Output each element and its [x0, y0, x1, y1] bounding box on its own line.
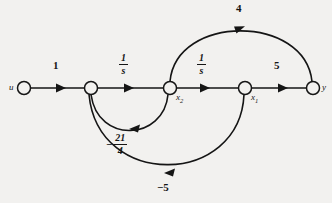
fraction-numerator: 21 — [113, 133, 127, 144]
node-label-x1: x1 — [251, 93, 258, 104]
node-label-x2: x2 — [176, 93, 183, 104]
arrowhead-x1-to-y — [278, 84, 288, 93]
gain-value-x1-to-node2: −5 — [157, 181, 169, 193]
node-u[interactable] — [18, 82, 31, 95]
fraction-1-over-s-first: 1 s — [119, 53, 128, 76]
edge-x2-to-node2-arc — [91, 95, 168, 131]
fraction-sign: − — [106, 139, 112, 150]
fraction-1-over-s-second: 1 s — [197, 53, 206, 76]
gain-label-node2-to-x2: 1 s — [119, 53, 128, 76]
fraction-denominator: s — [119, 66, 128, 77]
node-x1[interactable] — [239, 82, 252, 95]
arrowhead-x2-to-y-arc — [234, 26, 245, 33]
arrowhead-x2-to-x1 — [200, 84, 210, 93]
fraction-numerator: 1 — [119, 53, 128, 64]
fraction-denominator: 4 — [113, 146, 127, 157]
gain-label-u-to-node2: 1 — [53, 60, 59, 71]
arrowhead-x1-to-node2-arc — [164, 169, 175, 177]
gain-value-x1-to-y: 5 — [274, 59, 280, 71]
gain-label-x2-to-y: 4 — [236, 3, 242, 14]
node-label-x2-subscript: 2 — [180, 97, 183, 104]
fraction-21-over-4: 21 4 — [113, 133, 127, 156]
node-y[interactable] — [307, 82, 320, 95]
node-label-u-text: u — [9, 82, 14, 92]
gain-label-x2-to-node2: − 21 4 — [106, 133, 127, 156]
signed-fraction-minus-21-over-4: − 21 4 — [106, 133, 127, 156]
gain-label-x1-to-node2: −5 — [157, 182, 169, 193]
signal-flow-graph-figure: u x2 x1 y 1 1 s 1 s 5 4 − — [0, 0, 332, 203]
gain-value-x2-to-y: 4 — [236, 2, 242, 14]
node-label-y: y — [322, 83, 326, 92]
gain-value-u-to-node2: 1 — [53, 59, 59, 71]
node-label-u: u — [9, 83, 14, 92]
node-label-x1-subscript: 1 — [255, 97, 258, 104]
edge-x2-to-y-arc — [170, 31, 312, 82]
node-summing-junction[interactable] — [85, 82, 98, 95]
fraction-denominator: s — [197, 66, 206, 77]
graph-canvas — [0, 0, 332, 203]
fraction-numerator: 1 — [197, 53, 206, 64]
arrowhead-node2-to-x2 — [124, 84, 134, 93]
node-label-y-text: y — [322, 82, 326, 92]
gain-label-x1-to-y: 5 — [274, 60, 280, 71]
arrowhead-u-to-node2 — [56, 84, 66, 93]
arrowhead-x2-to-node2-arc — [129, 125, 140, 133]
node-x2[interactable] — [164, 82, 177, 95]
gain-label-x2-to-x1: 1 s — [197, 53, 206, 76]
